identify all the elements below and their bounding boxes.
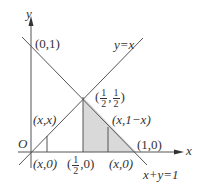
point-label-half-half: (12,12)	[95, 88, 125, 109]
line-label-x-plus-y-equals-1: x+y=1	[143, 168, 179, 181]
fraction-one-half: 12	[113, 88, 120, 109]
point-label-x-0-left: (x,0)	[33, 157, 57, 170]
x-axis-arrow-icon	[174, 150, 184, 155]
paren-open: (	[95, 89, 99, 104]
fraction-one-half: 12	[72, 155, 79, 176]
point-label-1-0: (1,0)	[137, 138, 162, 151]
line-label-y-equals-x: y=x	[114, 38, 134, 51]
point-label-half-0: (12,0)	[67, 155, 94, 176]
y-axis-label: y	[26, 7, 32, 20]
origin-label: O	[18, 137, 27, 150]
fraction-one-half: 12	[100, 88, 107, 109]
point-label-x-1-minus-x: (x,1−x)	[112, 113, 151, 126]
point-label-x-x: (x,x)	[33, 113, 56, 126]
x-axis-label: x	[186, 144, 192, 157]
point-label-0-1: (0,1)	[35, 37, 60, 50]
point-label-x-0-right: (x,0)	[109, 157, 133, 170]
